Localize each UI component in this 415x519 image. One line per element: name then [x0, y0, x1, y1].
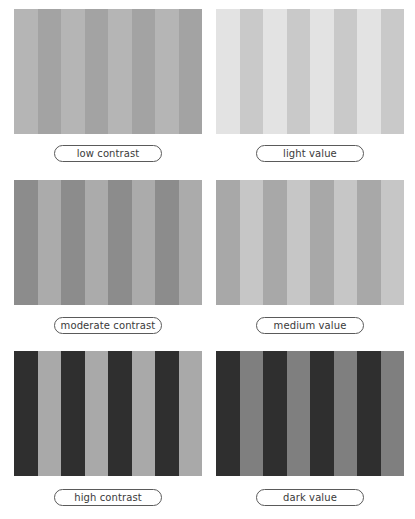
stripe: [132, 351, 156, 476]
label-moderate-contrast: moderate contrast: [54, 317, 162, 334]
stripe: [216, 9, 240, 134]
stripe: [357, 180, 381, 305]
stripe: [155, 9, 179, 134]
stripe: [155, 351, 179, 476]
stripe: [334, 351, 358, 476]
stripe-panel-moderate-contrast: [14, 180, 202, 305]
stripe: [287, 351, 311, 476]
stripe: [357, 351, 381, 476]
stripe: [85, 180, 109, 305]
label-medium-value: medium value: [256, 317, 364, 334]
stripe: [216, 351, 240, 476]
stripe: [132, 180, 156, 305]
stripe: [38, 180, 62, 305]
stripe: [38, 9, 62, 134]
stripe: [14, 351, 38, 476]
stripe: [85, 351, 109, 476]
stripe: [287, 180, 311, 305]
label-dark-value: dark value: [256, 489, 364, 506]
stripe: [216, 180, 240, 305]
stripe: [240, 351, 264, 476]
stripe: [310, 351, 334, 476]
stripe-panel-light-value: [216, 9, 404, 134]
stripe: [61, 9, 85, 134]
stripe: [287, 9, 311, 134]
label-light-value: light value: [256, 145, 364, 162]
stripe: [61, 351, 85, 476]
stripe: [108, 180, 132, 305]
stripe: [108, 351, 132, 476]
stripe: [179, 180, 203, 305]
stripe: [263, 180, 287, 305]
stripe: [108, 9, 132, 134]
stripe: [85, 9, 109, 134]
stripe: [240, 9, 264, 134]
stripe: [61, 180, 85, 305]
stripe: [14, 180, 38, 305]
stripe: [263, 351, 287, 476]
stripe: [179, 9, 203, 134]
stripe: [132, 9, 156, 134]
stripe: [310, 180, 334, 305]
stripe-panel-dark-value: [216, 351, 404, 476]
stripe: [381, 180, 405, 305]
stripe-panel-low-contrast: [14, 9, 202, 134]
stripe: [155, 180, 179, 305]
stripe: [334, 180, 358, 305]
stripe: [263, 9, 287, 134]
stripe: [240, 180, 264, 305]
stripe: [310, 9, 334, 134]
label-low-contrast: low contrast: [54, 145, 162, 162]
stripe: [381, 351, 405, 476]
stripe: [334, 9, 358, 134]
stripe: [381, 9, 405, 134]
stripe: [357, 9, 381, 134]
stripe-panel-high-contrast: [14, 351, 202, 476]
stripe: [38, 351, 62, 476]
stripe: [179, 351, 203, 476]
label-high-contrast: high contrast: [54, 489, 162, 506]
stripe-panel-medium-value: [216, 180, 404, 305]
stripe: [14, 9, 38, 134]
